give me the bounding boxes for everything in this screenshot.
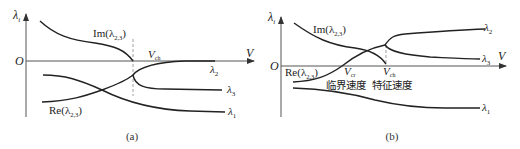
x-axis-label: V: [246, 46, 255, 60]
panel-a: λi O V Im(λ2,3) Vch λ2 λ3 λ1 Re(λ2,3) (a…: [12, 8, 255, 143]
im-lambda23-curve: [40, 21, 133, 61]
lambda1-label: λ1: [481, 101, 491, 116]
im-lambda23-label: Im(λ2,3): [93, 27, 126, 41]
vch-label: Vch: [383, 65, 395, 78]
caption-a: (a): [126, 130, 139, 143]
vcr-label: Vcr: [344, 65, 355, 78]
re-lambda23-label: Re(λ2,3): [285, 66, 318, 80]
lambda1-curve: [293, 88, 480, 108]
lambda2-curve: [133, 61, 215, 75]
im-lambda23-label: Im(λ2,3): [313, 23, 346, 37]
characteristic-speed-label: 特征速度: [372, 79, 413, 91]
lambda3-label: λ3: [226, 83, 236, 98]
lambda3-label: λ3: [481, 52, 491, 67]
lambda2-curve: [385, 29, 485, 45]
lambda1-label: λ1: [227, 105, 237, 120]
lambda2-label: λ2: [209, 63, 219, 78]
eigenvalue-figure: λi O V Im(λ2,3) Vch λ2 λ3 λ1 Re(λ2,3) (a…: [0, 0, 520, 149]
lambda1-curve: [43, 75, 225, 112]
origin-label: O: [270, 59, 279, 73]
caption-b: (b): [386, 130, 399, 143]
origin-label: O: [15, 54, 24, 68]
lambda3-curve: [385, 45, 480, 59]
y-axis-label: λi: [267, 10, 275, 26]
y-axis-label: λi: [12, 8, 20, 24]
re-lambda23-label: Re(λ2,3): [49, 104, 82, 118]
panel-b: λi O V Im(λ2,3) Re(λ2,3) Vcr Vch 临界速度 特征…: [267, 10, 507, 143]
lambda2-label: λ2: [483, 21, 493, 36]
lambda3-curve: [133, 75, 222, 90]
vch-label: Vch: [148, 48, 160, 61]
x-axis-label: V: [498, 49, 507, 63]
critical-speed-label: 临界速度: [326, 79, 367, 91]
